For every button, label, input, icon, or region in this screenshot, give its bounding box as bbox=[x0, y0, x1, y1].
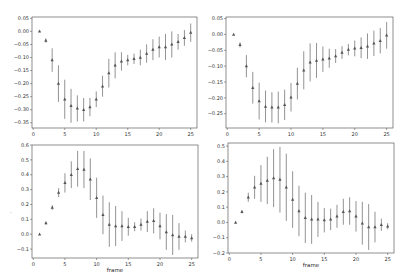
data-point-triangle bbox=[360, 46, 363, 49]
x-tick-label: 5 bbox=[258, 131, 261, 137]
y-tick-label: 0.2 bbox=[217, 189, 225, 195]
data-point-triangle bbox=[63, 181, 66, 184]
data-point-triangle bbox=[170, 43, 173, 46]
subplot-bottom-left: 05101520250.60.50.40.30.20.10.0−0.1frame bbox=[17, 142, 198, 273]
data-point-triangle bbox=[114, 64, 117, 67]
data-point-triangle bbox=[158, 45, 161, 48]
data-point-triangle bbox=[120, 60, 123, 63]
y-tick-label: −0.05 bbox=[14, 41, 29, 47]
data-point-triangle bbox=[146, 220, 149, 223]
x-tick-label: 25 bbox=[188, 131, 194, 137]
data-point-triangle bbox=[347, 48, 350, 51]
y-tick-label: −0.10 bbox=[208, 63, 223, 69]
data-point-triangle bbox=[107, 71, 110, 74]
data-point-triangle bbox=[171, 233, 174, 236]
data-point-triangle bbox=[232, 33, 235, 36]
data-point-triangle bbox=[367, 225, 370, 228]
x-tick-label: 20 bbox=[353, 256, 359, 262]
x-tick-label: 15 bbox=[125, 261, 131, 267]
data-point-triangle bbox=[108, 223, 111, 226]
data-point-triangle bbox=[380, 223, 383, 226]
y-tick-label: 0.05 bbox=[18, 15, 29, 21]
y-tick-label: 0.2 bbox=[21, 201, 29, 207]
data-point-triangle bbox=[114, 224, 117, 227]
x-axis-label: frame bbox=[107, 267, 124, 273]
data-point-triangle bbox=[354, 215, 357, 218]
data-point-triangle bbox=[88, 105, 91, 108]
y-tick-label: −0.15 bbox=[14, 67, 29, 73]
x-tick-label: 5 bbox=[63, 131, 66, 137]
x-tick-label: 20 bbox=[157, 261, 163, 267]
y-tick-label: 0.0 bbox=[21, 231, 29, 237]
data-point-triangle bbox=[57, 82, 60, 85]
y-tick-label: 0.5 bbox=[217, 143, 225, 149]
data-point-triangle bbox=[278, 178, 281, 181]
data-point-triangle bbox=[266, 179, 269, 182]
data-point-triangle bbox=[259, 182, 262, 185]
data-point-triangle bbox=[177, 235, 180, 238]
figure: 05101520250.050.00−0.05−0.10−0.15−0.20−0… bbox=[0, 0, 408, 280]
data-point-triangle bbox=[126, 58, 129, 61]
data-point-triangle bbox=[285, 186, 288, 189]
y-tick-label: 0.5 bbox=[21, 157, 29, 163]
data-point-triangle bbox=[164, 45, 167, 48]
data-point-triangle bbox=[158, 224, 161, 227]
data-point-triangle bbox=[44, 39, 47, 42]
y-tick-label: −0.05 bbox=[208, 47, 223, 53]
y-tick-label: 0.4 bbox=[21, 171, 29, 177]
x-tick-label: 5 bbox=[259, 256, 262, 262]
data-point-triangle bbox=[366, 44, 369, 47]
data-point-triangle bbox=[127, 225, 130, 228]
x-tick-label: 10 bbox=[93, 131, 99, 137]
data-point-triangle bbox=[372, 42, 375, 45]
data-point-triangle bbox=[270, 106, 273, 109]
data-point-triangle bbox=[101, 213, 104, 216]
data-point-triangle bbox=[297, 209, 300, 212]
data-point-triangle bbox=[272, 176, 275, 179]
data-point-triangle bbox=[44, 221, 47, 224]
x-tick-label: 25 bbox=[188, 261, 194, 267]
x-tick-label: 5 bbox=[63, 261, 66, 267]
data-point-triangle bbox=[283, 103, 286, 106]
data-point-triangle bbox=[385, 34, 388, 37]
subplot-bottom-right: 05101520250.50.40.30.20.10.0−0.1−0.2fram… bbox=[213, 143, 394, 268]
x-tick-label: 0 bbox=[32, 131, 35, 137]
data-point-triangle bbox=[145, 52, 148, 55]
data-point-triangle bbox=[82, 168, 85, 171]
data-point-triangle bbox=[334, 54, 337, 57]
data-point-triangle bbox=[139, 223, 142, 226]
y-tick-label: −0.15 bbox=[208, 79, 223, 85]
x-tick-label: 15 bbox=[320, 131, 326, 137]
y-tick-label: 0.05 bbox=[212, 15, 223, 21]
stray-mark: . bbox=[10, 208, 12, 214]
data-point-triangle bbox=[76, 167, 79, 170]
y-tick-label: 0.0 bbox=[217, 219, 225, 225]
y-tick-label: −0.10 bbox=[14, 54, 29, 60]
y-tick-label: −0.20 bbox=[208, 95, 223, 101]
data-point-triangle bbox=[353, 47, 356, 50]
data-point-triangle bbox=[335, 215, 338, 218]
subplot-top-left: 05101520250.050.00−0.05−0.10−0.15−0.20−0… bbox=[14, 15, 197, 136]
data-point-triangle bbox=[348, 209, 351, 212]
x-tick-label: 25 bbox=[383, 131, 389, 137]
y-tick-label: −0.2 bbox=[213, 250, 225, 256]
axes-frame bbox=[228, 143, 394, 253]
data-point-triangle bbox=[379, 39, 382, 42]
data-point-triangle bbox=[95, 196, 98, 199]
data-point-triangle bbox=[386, 224, 389, 227]
y-tick-label: 0.00 bbox=[18, 28, 29, 34]
y-tick-label: 0.00 bbox=[212, 31, 223, 37]
y-tick-label: 0.1 bbox=[217, 204, 225, 210]
data-point-triangle bbox=[70, 173, 73, 176]
axes-frame bbox=[32, 145, 198, 258]
data-point-triangle bbox=[342, 210, 345, 213]
data-point-triangle bbox=[133, 225, 136, 228]
x-axis-label: frame bbox=[303, 262, 320, 268]
data-point-triangle bbox=[258, 99, 261, 102]
x-tick-label: 20 bbox=[156, 131, 162, 137]
data-point-triangle bbox=[76, 107, 79, 110]
data-point-triangle bbox=[277, 106, 280, 109]
data-point-triangle bbox=[152, 219, 155, 222]
data-point-triangle bbox=[190, 236, 193, 239]
y-tick-label: 0.4 bbox=[217, 158, 225, 164]
